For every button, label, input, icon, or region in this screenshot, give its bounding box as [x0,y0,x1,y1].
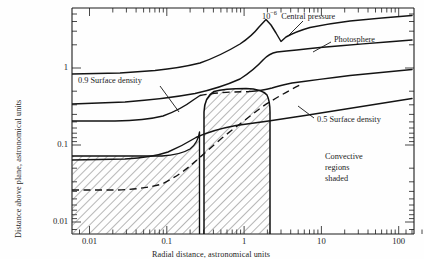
x-tick-label-2: 1 [224,236,264,246]
surface-density-05-label: 0.5 Surface density [317,115,381,126]
lower-left-convective-region [72,132,200,234]
photosphere-label: Photosphere [334,35,375,46]
central-pressure-label: 10−6 Central pressure [262,12,335,23]
x-axis-title: Radial distance, astronomical units [152,250,270,259]
x-tick-label-4: 100 [379,236,419,246]
y-tick-label-1: 0.1 [38,139,68,149]
y-tick-label-2: 0.01 [38,216,68,226]
upper-middle-convective-region [204,89,270,235]
right-axis-ticks [405,14,414,230]
figure-container: Distance above plane, astronomical units… [0,0,424,259]
convective-note-line-2: regions [325,163,363,174]
convective-note: Convective regions shaded [325,152,363,185]
central-pressure-exponent: −6 [270,9,277,16]
x-tick-label-0: 0.01 [70,236,110,246]
x-tick-label-1: 0.1 [147,236,187,246]
y-axis-title: Distance above plane, astronomical units [14,100,23,238]
y-tick-label-0: 1 [38,62,68,72]
leader-line-central-pressure [288,21,303,36]
surface-density-09-curve-solid-left [72,96,200,122]
surface-density-09-curve-solid-right [249,70,412,92]
central-pressure-suffix: Central pressure [281,12,335,21]
x-tick-label-3: 10 [301,236,341,246]
convective-note-line-3: shaded [325,174,363,185]
surface-density-09-label: 0.9 Surface density [78,76,142,87]
convective-note-line-1: Convective [325,152,363,163]
top-axis-ticks [90,8,399,16]
